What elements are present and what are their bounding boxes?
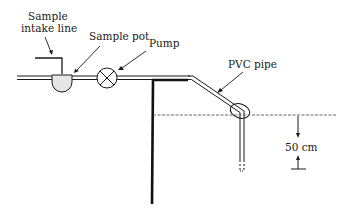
depth-label: 50 cm — [285, 141, 318, 153]
sampling-setup-diagram: 50 cm Sample intake line Sample pot Pump… — [0, 0, 347, 216]
support-post — [152, 80, 153, 204]
sample-pot-arrow — [74, 46, 100, 73]
pvc-pipe-arrow — [217, 72, 243, 93]
pvc-pipe — [188, 76, 244, 171]
pump-icon — [97, 68, 117, 88]
pump-label: Pump — [149, 37, 180, 49]
pvc-pipe-label: PVC pipe — [228, 58, 277, 70]
pump-arrow — [118, 51, 146, 70]
sample-pot-icon — [52, 75, 72, 92]
intake-line-arrow — [45, 37, 53, 55]
pipe-entry-ellipse — [228, 101, 252, 121]
sample-pot-label: Sample pot — [89, 30, 150, 42]
intake-line-label-2: intake line — [21, 22, 77, 34]
sample-intake-line — [35, 58, 62, 74]
intake-line-label-1: Sample — [28, 10, 68, 22]
